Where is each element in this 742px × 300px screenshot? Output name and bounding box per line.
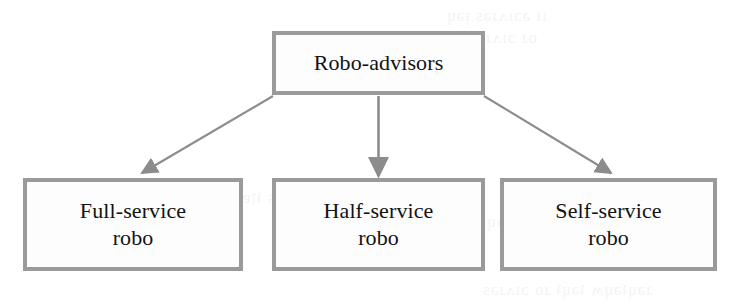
node-full-service-robo-text: Full-service robo bbox=[80, 198, 186, 252]
node-robo-advisors[interactable]: Robo-advisors bbox=[272, 31, 485, 95]
node-self-service-robo-text: Self-service robo bbox=[555, 198, 661, 252]
node-robo-advisors-label: Robo-advisors bbox=[314, 50, 444, 77]
node-half-service-robo-text: Half-service robo bbox=[324, 198, 434, 252]
node-full-service-robo-label-line-1: Full-service bbox=[80, 198, 186, 225]
diagram-canvas: ıı əɔıʌɹǝs ᴉǝɥ oɹ ɔıʌɹǝs-ɟןɐH ɔıʌɹǝs ןןᴉ… bbox=[0, 0, 742, 300]
node-self-service-robo[interactable]: Self-service robo bbox=[500, 178, 717, 271]
node-half-service-robo-label-line-1: Half-service bbox=[324, 198, 434, 225]
node-half-service-robo-label-line-2: robo bbox=[324, 225, 434, 252]
connector-root-to-full bbox=[142, 96, 273, 173]
node-self-service-robo-label-line-2: robo bbox=[555, 225, 661, 252]
node-full-service-robo[interactable]: Full-service robo bbox=[23, 178, 243, 271]
node-self-service-robo-label-line-1: Self-service bbox=[555, 198, 661, 225]
node-half-service-robo[interactable]: Half-service robo bbox=[272, 178, 485, 271]
connector-root-to-self bbox=[484, 96, 611, 173]
node-full-service-robo-label-line-2: robo bbox=[80, 225, 186, 252]
